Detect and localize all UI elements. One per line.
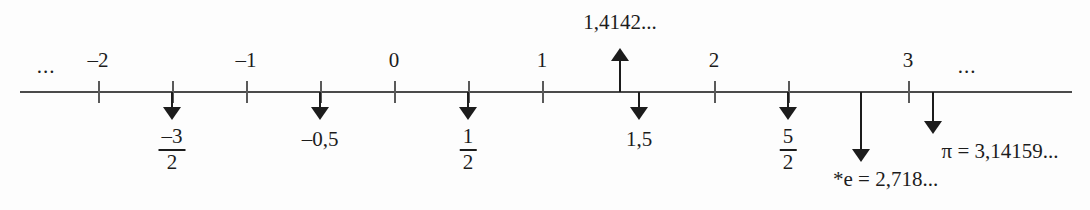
label-one-point-five: 1,5 — [626, 128, 652, 150]
tick-label-2: 2 — [709, 50, 720, 71]
number-line-figure: ... ... –2 –1 0 1 2 3 1,4142... –3 2 –0,… — [0, 0, 1090, 210]
arrow-up-sqrt-two — [610, 48, 630, 92]
arrow-down-negative-zero-point-five — [310, 92, 330, 120]
fraction-numerator: 1 — [460, 126, 477, 147]
tick-label-3: 3 — [903, 50, 914, 71]
arrow-down-one-point-five — [629, 92, 649, 120]
fraction-denominator: 2 — [780, 152, 797, 173]
label-pi: π = 3,14159... — [942, 140, 1059, 162]
arrow-down-one-half — [458, 92, 478, 120]
ellipsis-right: ... — [958, 56, 977, 77]
arrow-down-pi — [923, 92, 943, 134]
label-euler-number: *e = 2,718... — [833, 168, 938, 190]
tick-mark — [246, 81, 248, 103]
fraction-numerator: 5 — [780, 126, 797, 147]
tick-mark — [394, 81, 396, 103]
label-sqrt-two: 1,4142... — [583, 11, 657, 33]
arrow-down-negative-three-halves — [162, 92, 182, 120]
arrow-down-euler-number — [851, 92, 871, 162]
fraction-denominator: 2 — [460, 152, 477, 173]
tick-mark — [908, 81, 910, 103]
label-five-halves: 5 2 — [780, 126, 797, 174]
tick-mark — [542, 81, 544, 103]
tick-mark — [98, 81, 100, 103]
tick-label-1: 1 — [537, 50, 548, 71]
tick-label-minus-1: –1 — [236, 50, 257, 71]
label-negative-zero-point-five: –0,5 — [302, 128, 339, 150]
label-one-half: 1 2 — [460, 126, 477, 174]
tick-label-0: 0 — [389, 50, 400, 71]
ellipsis-left: ... — [37, 56, 56, 77]
tick-label-minus-2: –2 — [88, 50, 109, 71]
label-negative-three-halves: –3 2 — [159, 126, 186, 174]
fraction-denominator: 2 — [159, 152, 186, 173]
tick-mark — [714, 81, 716, 103]
arrow-down-five-halves — [778, 92, 798, 120]
fraction-numerator: –3 — [159, 126, 186, 147]
